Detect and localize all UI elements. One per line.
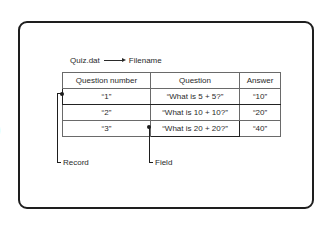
record-pointer-line-tail <box>57 162 61 163</box>
table-row: “2” “What is 10 + 10?” “20” <box>63 105 281 121</box>
cell-question: “What is 5 + 5?” <box>151 89 240 105</box>
table-header-row: Question number Question Answer <box>63 73 281 89</box>
cell-answer: “10” <box>240 89 281 105</box>
record-pointer-line-v <box>57 93 58 163</box>
field-pointer-line-tail <box>149 162 153 163</box>
cropped-glyph: ) <box>0 119 1 139</box>
header-answer: Answer <box>240 73 281 89</box>
field-pointer-line-v <box>149 127 150 163</box>
cell-answer: “40” <box>240 121 281 137</box>
table-row-record: “1” “What is 5 + 5?” “10” <box>63 89 281 105</box>
cell-answer: “20” <box>240 105 281 121</box>
filename-annotation: Quiz.dat Filename <box>70 55 162 66</box>
cell-question-field: “What is 20 + 20?” <box>151 121 240 137</box>
cell-question-number: “3” <box>63 121 151 137</box>
header-question-number: Question number <box>63 73 151 89</box>
cell-question-number: “1” <box>63 89 151 105</box>
filename-label: Filename <box>129 55 162 66</box>
right-arrow-icon <box>104 55 126 66</box>
cell-question: “What is 10 + 10?” <box>151 105 240 121</box>
file-name: Quiz.dat <box>70 55 100 66</box>
field-label: Field <box>155 158 172 168</box>
table-row: “3” “What is 20 + 20?” “40” <box>63 121 281 137</box>
header-question: Question <box>151 73 240 89</box>
cell-question-number: “2” <box>63 105 151 121</box>
quiz-table: Question number Question Answer “1” “Wha… <box>62 72 281 137</box>
record-label: Record <box>63 158 89 168</box>
